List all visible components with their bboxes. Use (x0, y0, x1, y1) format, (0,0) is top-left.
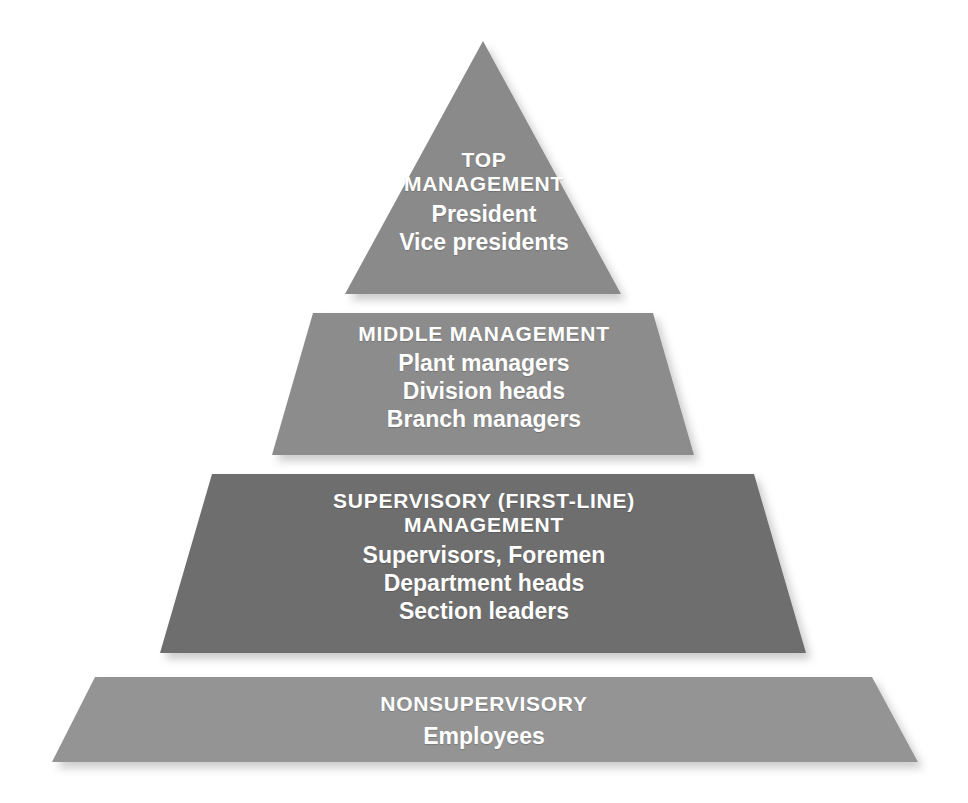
tier-4-polygon (52, 677, 918, 762)
tier-4-shape (0, 0, 968, 803)
pyramid-diagram: TOP MANAGEMENT President Vice presidents… (0, 0, 968, 803)
